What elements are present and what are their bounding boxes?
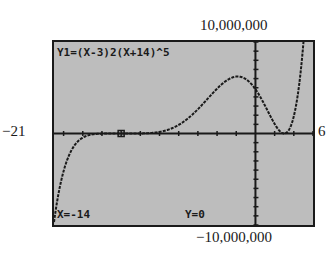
trace-x-value: X=-14 (57, 208, 90, 221)
xmin-label: −21 (2, 124, 25, 139)
graph-plot (54, 42, 313, 225)
equation-label: Y1=(X-3)2(X+14)^5 (57, 46, 170, 59)
xmax-label: 6 (318, 124, 326, 139)
ymin-label: −10,000,000 (196, 230, 272, 245)
calculator-screen: Y1=(X-3)2(X+14)^5 X=-14 Y=0 (52, 40, 315, 227)
trace-y-value: Y=0 (185, 208, 205, 221)
ymax-label: 10,000,000 (200, 18, 268, 33)
